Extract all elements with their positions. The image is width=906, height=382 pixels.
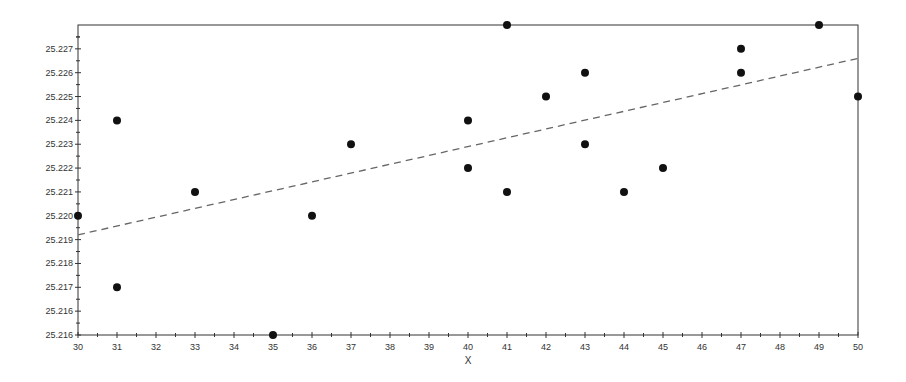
data-point xyxy=(113,283,121,291)
x-tick-label: 32 xyxy=(151,342,161,352)
y-tick-label: 25.222 xyxy=(45,163,73,173)
data-point xyxy=(191,188,199,196)
x-tick-label: 35 xyxy=(268,342,278,352)
x-tick-label: 43 xyxy=(580,342,590,352)
x-tick-label: 41 xyxy=(502,342,512,352)
data-points xyxy=(74,21,862,339)
y-tick-label: 25.218 xyxy=(45,258,73,268)
x-tick-label: 45 xyxy=(658,342,668,352)
x-tick-label: 49 xyxy=(814,342,824,352)
data-point xyxy=(581,140,589,148)
x-tick-label: 50 xyxy=(853,342,863,352)
data-point xyxy=(347,140,355,148)
x-tick-label: 44 xyxy=(619,342,629,352)
data-point xyxy=(464,164,472,172)
x-tick-label: 46 xyxy=(697,342,707,352)
data-point xyxy=(737,45,745,53)
y-tick-label: 25.225 xyxy=(45,92,73,102)
x-tick-label: 48 xyxy=(775,342,785,352)
x-tick-label: 38 xyxy=(385,342,395,352)
data-point xyxy=(308,212,316,220)
scatter-chart: 3031323334353637383940414243444546474849… xyxy=(0,0,906,382)
y-tick-label: 25.219 xyxy=(45,235,73,245)
y-tick-label: 25.223 xyxy=(45,139,73,149)
data-point xyxy=(620,188,628,196)
x-axis-title: X xyxy=(465,355,472,366)
data-point xyxy=(581,69,589,77)
y-tick-label: 25.217 xyxy=(45,282,73,292)
x-tick-label: 36 xyxy=(307,342,317,352)
x-tick-label: 33 xyxy=(190,342,200,352)
y-tick-label: 25.226 xyxy=(45,68,73,78)
data-point xyxy=(659,164,667,172)
y-tick-label: 25.224 xyxy=(45,115,73,125)
y-tick-label: 25.221 xyxy=(45,187,73,197)
data-point xyxy=(464,116,472,124)
data-point xyxy=(113,116,121,124)
data-point xyxy=(269,331,277,339)
data-point xyxy=(503,21,511,29)
data-point xyxy=(737,69,745,77)
y-tick-label: 25.227 xyxy=(45,44,73,54)
y-tick-label: 25.216 xyxy=(45,306,73,316)
data-point xyxy=(815,21,823,29)
x-tick-label: 31 xyxy=(112,342,122,352)
x-tick-label: 34 xyxy=(229,342,239,352)
trend-line xyxy=(78,58,858,234)
x-tick-label: 47 xyxy=(736,342,746,352)
x-tick-label: 30 xyxy=(73,342,83,352)
data-point xyxy=(503,188,511,196)
x-tick-label: 42 xyxy=(541,342,551,352)
data-point xyxy=(542,93,550,101)
y-axis: 25.21625.21625.21725.21825.21925.22025.2… xyxy=(45,37,81,340)
y-tick-label: 25.220 xyxy=(45,211,73,221)
x-tick-label: 39 xyxy=(424,342,434,352)
x-tick-label: 37 xyxy=(346,342,356,352)
data-point xyxy=(74,212,82,220)
data-point xyxy=(854,93,862,101)
x-tick-label: 40 xyxy=(463,342,473,352)
y-tick-label: 25.216 xyxy=(45,330,73,340)
